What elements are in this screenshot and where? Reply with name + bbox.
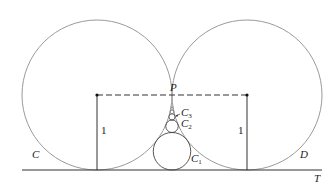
label-radius-right: 1 bbox=[238, 124, 244, 136]
circle-c4 bbox=[170, 110, 174, 114]
center-dot-left bbox=[95, 93, 98, 96]
circle-c2 bbox=[166, 120, 179, 133]
tangent-circles-diagram: P C3 C2 C1 1 1 C D T bbox=[0, 0, 336, 185]
label-line-t: T bbox=[314, 172, 321, 184]
c3-arrowhead-icon bbox=[175, 114, 178, 116]
label-circle-c: C bbox=[32, 148, 40, 160]
circle-c3 bbox=[169, 114, 175, 120]
label-circle-d: D bbox=[299, 148, 308, 160]
circle-c1 bbox=[153, 133, 191, 171]
label-radius-left: 1 bbox=[101, 124, 107, 136]
center-dot-right bbox=[245, 93, 248, 96]
label-p: P bbox=[169, 81, 177, 93]
